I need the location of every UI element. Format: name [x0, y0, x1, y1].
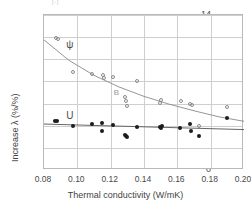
y-axis-title: Increase λ (%/%): [10, 93, 20, 162]
data-point-psi: [124, 99, 128, 103]
data-point-u: [189, 129, 193, 133]
gridline-vertical: [211, 15, 212, 168]
gridline-horizontal: [44, 81, 242, 82]
data-point-psi: [159, 98, 163, 102]
data-point-psi: [135, 79, 139, 83]
data-point-psi: [56, 37, 60, 41]
data-point-u: [100, 129, 104, 133]
data-point-psi: [71, 70, 75, 74]
data-point-psi: [225, 105, 229, 109]
series-annotation-ψ: ψ: [66, 39, 73, 50]
data-point-u: [90, 122, 94, 126]
data-point-u: [188, 122, 192, 126]
gridline-vertical: [77, 15, 78, 168]
x-axis-tick-label: 0.12: [101, 174, 118, 184]
x-axis-tick-label: 0.18: [201, 174, 218, 184]
data-point-u: [55, 119, 59, 123]
data-point-u: [135, 125, 139, 129]
data-point-psi: [90, 72, 94, 76]
data-point-u: [71, 124, 75, 128]
data-point-psi: [179, 99, 183, 103]
gridline-horizontal: [44, 37, 242, 38]
gridline-horizontal: [44, 148, 242, 149]
data-point-psi: [102, 76, 106, 80]
x-axis-tick-label: 0.14: [135, 174, 152, 184]
gridline-horizontal: [44, 104, 242, 105]
data-point-psi: [197, 124, 201, 128]
x-axis-tick-label: 0.08: [35, 174, 52, 184]
series-annotation-B: B: [114, 87, 119, 96]
data-point-u: [225, 116, 229, 120]
plot-area: ψUB: [43, 14, 243, 169]
data-point-u: [160, 124, 164, 128]
gridline-vertical: [177, 15, 178, 168]
x-axis-title: Thermal conductivity (W/mK): [0, 190, 251, 200]
gridline-horizontal: [44, 15, 242, 16]
data-point-u: [100, 121, 104, 125]
data-point-u: [125, 135, 129, 139]
data-point-psi: [190, 103, 194, 107]
x-axis-tick-label: 0.20: [235, 174, 251, 184]
series-annotation-U: U: [66, 110, 73, 121]
x-axis-tick-label: 0.10: [68, 174, 85, 184]
data-point-u: [178, 126, 182, 130]
gridline-vertical: [144, 15, 145, 168]
x-axis-tick-label: 0.16: [168, 174, 185, 184]
chart-container: [-] Increase λ (%/%) 02468101214 0.080.1…: [0, 0, 251, 208]
top-note-text: [-]: [52, 0, 59, 5]
data-point-psi: [125, 104, 129, 108]
data-point-u: [197, 134, 201, 138]
gridline-vertical: [111, 15, 112, 168]
data-point-psi: [111, 75, 115, 79]
data-point-u: [111, 123, 115, 127]
gridline-horizontal: [44, 59, 242, 60]
